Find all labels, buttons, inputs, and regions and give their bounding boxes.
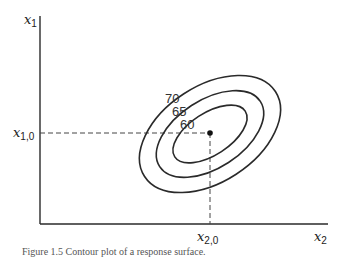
- contour-label-60: 60: [180, 118, 194, 131]
- optimum-point-dot: [207, 130, 213, 136]
- x-axis-subscript: 2: [321, 235, 327, 246]
- x1-optimum-subscript: 1,0: [20, 131, 34, 142]
- x-axis-label: x2: [314, 230, 327, 246]
- x2-optimum-label: x2,0: [197, 230, 218, 246]
- y-axis-subscript: 1: [31, 18, 37, 29]
- x1-optimum-label: x1,0: [13, 126, 34, 142]
- y-axis-label: x1: [24, 13, 37, 29]
- figure-caption: Figure 1.5 Contour plot of a response su…: [22, 246, 206, 257]
- x2-optimum-subscript: 2,0: [204, 235, 218, 246]
